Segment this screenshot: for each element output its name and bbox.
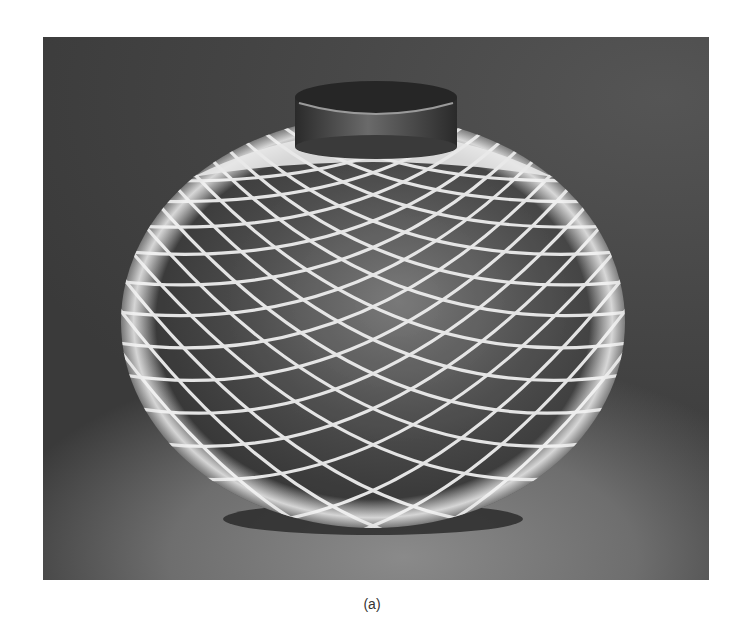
figure-caption: (a) <box>0 596 744 612</box>
vessel-photograph <box>43 37 709 580</box>
sphere-rim-highlight <box>121 116 625 528</box>
page: (a) <box>0 0 744 640</box>
wound-sphere-illustration <box>43 37 709 580</box>
polar-boss <box>295 81 457 159</box>
